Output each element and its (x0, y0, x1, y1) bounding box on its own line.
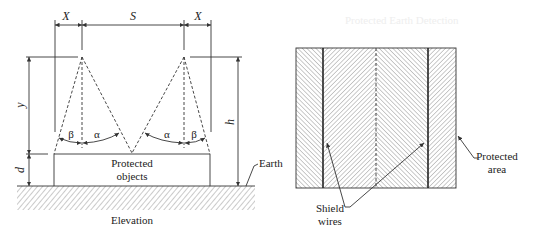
label-d: d (13, 166, 27, 173)
lightning-shield-diagram: Protected Earth Detection (0, 0, 533, 235)
label-x-right: X (193, 9, 202, 23)
earth-leader (246, 164, 258, 186)
plan-section-2 (323, 48, 376, 188)
plan-view (296, 48, 478, 207)
label-protected-area-1: Protected (476, 150, 518, 162)
plan-section-3 (376, 48, 428, 188)
label-alpha-right: α (164, 128, 170, 140)
bleed-heading: Protected Earth Detection (345, 14, 459, 26)
label-x-left: X (61, 9, 70, 23)
label-earth: Earth (259, 157, 283, 169)
label-s: S (130, 9, 136, 23)
arc-alpha-left (83, 133, 119, 143)
caption-elevation: Elevation (111, 214, 154, 226)
label-protected-objects-1: Protected (111, 157, 153, 169)
plan-section-1 (296, 48, 323, 188)
label-shield-wires-1: Shield (316, 202, 345, 214)
label-protected-area-2: area (488, 163, 506, 175)
label-y: y (13, 102, 27, 109)
plan-section-4 (428, 48, 456, 188)
label-beta-left: β (68, 128, 74, 140)
protection-zone-left (54, 57, 132, 154)
label-protected-objects-2: objects (116, 170, 147, 182)
leader-protected-area (458, 136, 478, 158)
label-beta-right: β (191, 128, 197, 140)
protection-zone-right (132, 57, 210, 154)
ground-hatch (17, 186, 255, 210)
background-bleed: Protected Earth Detection (345, 14, 459, 26)
label-shield-wires-2: wires (318, 215, 342, 227)
label-h: h (223, 119, 237, 125)
label-alpha-left: α (94, 128, 100, 140)
